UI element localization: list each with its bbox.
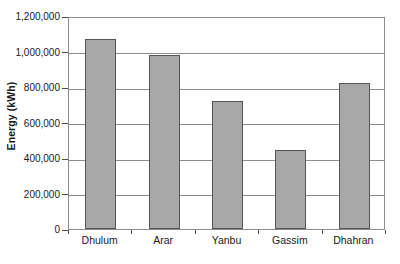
bar [275, 150, 306, 229]
gridline [69, 53, 384, 54]
bar [339, 83, 370, 229]
plot-area [68, 17, 385, 230]
y-tick-label: 1,000,000 [0, 48, 60, 58]
bar [149, 55, 180, 229]
y-tick-label: 600,000 [0, 119, 60, 129]
gridline [69, 89, 384, 90]
y-tick-label: 1,200,000 [0, 12, 60, 22]
bar [212, 101, 243, 229]
bar [85, 39, 116, 229]
y-tick-label: 200,000 [0, 190, 60, 200]
x-tick-label: Dhahran [313, 234, 393, 246]
bar-chart: Energy (kWh) 0200,000400,000600,000800,0… [0, 0, 400, 264]
y-tick-label: 400,000 [0, 154, 60, 164]
y-tick-label: 0 [0, 225, 60, 235]
y-tick-label: 800,000 [0, 83, 60, 93]
x-tick-mark [68, 230, 69, 234]
